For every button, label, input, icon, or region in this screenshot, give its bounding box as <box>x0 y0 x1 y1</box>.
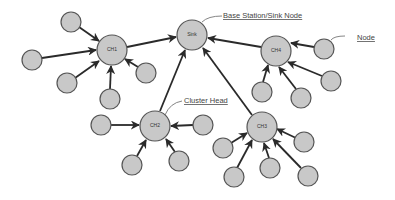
edge <box>160 50 185 111</box>
node-annotation: Node <box>357 33 375 42</box>
ch4-label: CH4 <box>271 47 281 53</box>
edge <box>231 133 247 143</box>
sensor-node <box>252 82 272 102</box>
cluster-head-leader-line <box>165 101 182 115</box>
ch3-label: CH3 <box>257 123 267 129</box>
edge <box>171 125 193 126</box>
cluster-network-diagram: Sink CH1 CH2 CH3 CH4 Base Station/Sink N… <box>0 0 395 200</box>
node-leader-line <box>331 36 345 40</box>
sink-label: Sink <box>187 31 197 37</box>
sensor-node <box>314 39 334 59</box>
cluster-head-ch1: CH1 <box>97 35 127 65</box>
sensor-node <box>91 115 111 135</box>
edge <box>208 38 261 47</box>
sensor-node <box>224 167 244 187</box>
sink-node: Sink <box>177 20 207 50</box>
sensor-node <box>169 151 189 171</box>
sink-annotation: Base Station/Sink Node <box>223 11 302 20</box>
edge <box>127 37 176 47</box>
ch2-label: CH2 <box>150 122 160 128</box>
edge <box>277 129 296 138</box>
ch1-label: CH1 <box>107 46 117 52</box>
sensor-node <box>122 155 142 175</box>
sensor-node <box>61 12 81 32</box>
edge <box>79 27 99 41</box>
sensor-node <box>57 73 77 93</box>
sensor-node <box>291 88 311 108</box>
sensor-node <box>294 132 314 152</box>
edge <box>166 139 175 152</box>
sensor-node <box>298 166 318 186</box>
cluster-head-ch4: CH4 <box>261 36 291 66</box>
sensor-node <box>193 115 213 135</box>
edge <box>137 140 146 156</box>
edge <box>288 62 322 76</box>
edge <box>75 61 99 78</box>
edge <box>237 140 252 168</box>
cluster-head-ch3: CH3 <box>247 112 277 142</box>
edge <box>264 143 269 158</box>
edge <box>110 66 111 89</box>
edge <box>42 50 96 58</box>
sensor-node <box>213 138 233 158</box>
edge <box>125 59 138 67</box>
cluster-head-annotation: Cluster Head <box>184 96 228 105</box>
sensor-node <box>321 71 341 91</box>
sensor-node <box>100 89 120 109</box>
sensor-node <box>136 63 156 83</box>
cluster-head-ch2: CH2 <box>140 111 170 141</box>
edge <box>263 65 268 82</box>
sensor-node <box>260 158 280 178</box>
edge <box>291 43 314 47</box>
sensor-node <box>22 50 42 70</box>
sink-leader-line <box>202 16 222 22</box>
edge <box>279 67 296 89</box>
